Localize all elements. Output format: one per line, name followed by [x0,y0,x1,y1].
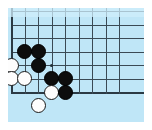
white-stone[interactable] [17,71,32,86]
grid-line-vertical [92,8,93,94]
grid-line-vertical [119,8,120,94]
star-point [50,64,53,67]
grid-line-vertical [79,8,80,94]
black-stone[interactable] [58,85,73,100]
grid-line-horizontal [11,25,144,26]
board-top-fade [8,8,144,17]
grid-line-horizontal [11,38,144,39]
diagram-page [0,0,152,130]
go-board[interactable] [8,8,144,122]
grid-line-horizontal [11,92,144,94]
black-stone[interactable] [31,44,46,59]
black-stone[interactable] [17,44,32,59]
white-stone[interactable] [44,85,59,100]
black-stone[interactable] [58,71,73,86]
black-stone[interactable] [44,71,59,86]
black-stone[interactable] [31,58,46,73]
grid-line-vertical [106,8,107,94]
white-stone[interactable] [31,98,46,113]
